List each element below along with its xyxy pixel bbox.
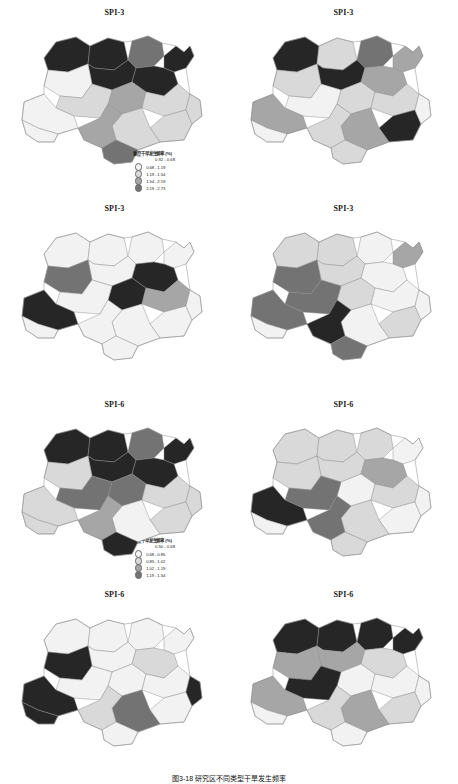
- legend-entries: 0.68 - 1.191.19 - 1.541.54 - 2.192.19 - …: [133, 164, 219, 192]
- map-legend: 重度干旱发生频率 (%) 0.92 - 0.68 0.68 - 1.191.19…: [133, 150, 219, 192]
- map-panel-b: SPI-3 中度干旱发生频率 (%) 3.24 - 3.98 3.98 - 4.…: [229, 0, 458, 196]
- choropleth-map: [4, 408, 225, 558]
- map-regions: [251, 428, 431, 556]
- map-regions: [251, 36, 431, 164]
- map-region: [393, 628, 423, 654]
- choropleth-map: [4, 212, 225, 362]
- legend-entry-label: 2.19 - 2.73: [146, 186, 165, 191]
- choropleth-map: [4, 16, 225, 166]
- choropleth-map: [233, 598, 454, 748]
- map-regions: [251, 618, 431, 746]
- map-region: [393, 438, 423, 464]
- choropleth-map: [233, 408, 454, 558]
- legend-entry: 0.68 - 1.19: [133, 164, 219, 171]
- map-panel-f: SPI-6 中度干旱发生频率 (%) 5.60 - 3.77 3.77 - 4.…: [229, 392, 458, 582]
- map-regions: [22, 232, 202, 360]
- map-panel-g: SPI-6 极度干旱发生频率 (%) 0.27 - 0.54 0.54 - 0.…: [0, 582, 229, 772]
- map-regions: [251, 232, 431, 360]
- legend-entry-label: 1.54 - 2.19: [146, 179, 165, 184]
- map-region: [393, 46, 423, 72]
- map-panel-h: SPI-6 中度干旱发生频率 (%) 3.60 - 3.77 3.77 - 4.…: [229, 582, 458, 772]
- figure-grid: SPI-3 重度干旱发生频率 (%) 0.92 - 0.68 0.68 - 1.…: [0, 0, 458, 784]
- map-region: [164, 46, 194, 72]
- choropleth-map: [4, 598, 225, 748]
- map-region: [164, 628, 194, 654]
- legend-entry-label: 0.68 - 1.19: [146, 165, 165, 170]
- choropleth-map: [233, 212, 454, 362]
- map-panel-d: SPI-3 中度干旱发生频率 (%) 3.24 - 7.01 7.01 - 4.…: [229, 196, 458, 392]
- map-regions: [22, 36, 202, 164]
- legend-title: 重度干旱发生频率 (%): [133, 150, 219, 156]
- map-regions: [22, 428, 202, 556]
- map-region: [164, 438, 194, 464]
- map-panel-a: SPI-3 重度干旱发生频率 (%) 0.92 - 0.68 0.68 - 1.…: [0, 0, 229, 196]
- legend-entry: 2.19 - 2.73: [133, 185, 219, 192]
- legend-entry-label: 1.19 - 1.54: [146, 172, 165, 177]
- map-region: [393, 242, 423, 268]
- map-region: [164, 242, 194, 268]
- legend-entry: 1.54 - 2.19: [133, 178, 219, 185]
- legend-entry: 1.19 - 1.54: [133, 171, 219, 178]
- map-panel-e: SPI-6 重度干旱发生频率 (%) 0.00 - 0.54 0.54 - 1.…: [0, 392, 229, 582]
- figure-caption: 图3-18 研究区不同类型干旱发生频率: [0, 772, 458, 784]
- legend-swatch-icon: [135, 184, 142, 191]
- choropleth-map: [233, 16, 454, 166]
- map-panel-c: SPI-3 极度干旱发生频率 (%) 0.50 - 0.68 0.68 - 0.…: [0, 196, 229, 392]
- legend-subtitle: 0.92 - 0.68: [133, 157, 219, 162]
- map-regions: [22, 618, 202, 746]
